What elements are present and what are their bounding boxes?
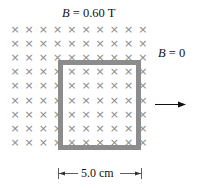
annotation-overlay <box>0 0 197 188</box>
velocity-arrow-icon <box>155 102 186 108</box>
loop-width-label: 5.0 cm <box>81 167 114 179</box>
